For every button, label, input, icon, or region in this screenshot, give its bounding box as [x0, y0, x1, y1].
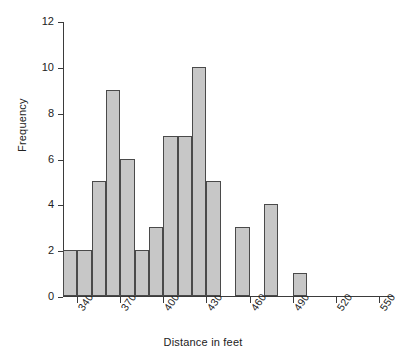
y-axis-tick-label: 6 [48, 153, 54, 165]
y-axis-tick-label: 12 [42, 15, 54, 27]
x-axis-title: Distance in feet [0, 336, 406, 348]
y-axis-tick-label: 10 [42, 61, 54, 73]
y-axis-title: Frequency [16, 42, 28, 152]
x-axis-tick-label: 550 [377, 291, 397, 313]
y-axis-tick-label: 2 [48, 244, 54, 256]
histogram-bar [135, 250, 149, 296]
y-axis-tick-label: 4 [48, 198, 54, 210]
histogram-bar [149, 227, 163, 296]
y-axis-tick-label: 8 [48, 107, 54, 119]
histogram-bar [192, 67, 206, 296]
histogram-bar [120, 159, 134, 297]
histogram-bar [63, 250, 77, 296]
histogram-bar [77, 250, 91, 296]
histogram-bar [92, 181, 106, 296]
histogram-bar [235, 227, 249, 296]
y-axis-tick: 6 [58, 160, 63, 161]
y-axis-tick: 12 [58, 22, 63, 23]
y-axis-tick-label: 0 [48, 290, 54, 302]
histogram-bar [106, 90, 120, 296]
plot-area: 024681012 340370400430460490520550 [63, 22, 393, 297]
histogram-figure: Frequency 024681012 34037040043046049052… [0, 0, 406, 359]
y-axis-tick: 0 [58, 297, 63, 298]
histogram-bar [293, 273, 307, 296]
histogram-bar [264, 204, 278, 296]
histogram-bar [206, 181, 220, 296]
y-axis-tick: 4 [58, 205, 63, 206]
x-axis-tick-label: 520 [334, 291, 354, 313]
y-axis-tick: 8 [58, 114, 63, 115]
histogram-bar [163, 136, 177, 296]
histogram-bar [178, 136, 192, 296]
y-axis-tick: 10 [58, 68, 63, 69]
